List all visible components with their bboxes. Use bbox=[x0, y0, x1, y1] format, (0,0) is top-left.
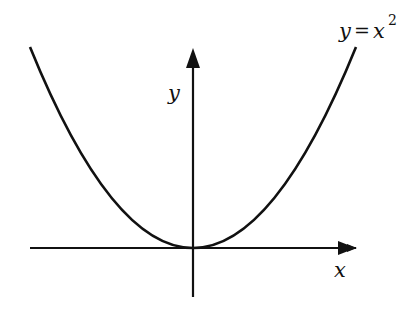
equation-equals: = bbox=[354, 19, 370, 41]
y-axis-label: y bbox=[167, 81, 181, 105]
y-axis-arrow-icon bbox=[186, 48, 200, 68]
equation-exponent: 2 bbox=[388, 12, 397, 28]
x-axis-label: x bbox=[334, 258, 346, 282]
equation-rhs: x bbox=[373, 19, 385, 43]
x-axis-arrow-icon bbox=[338, 241, 356, 255]
curve-equation-label: y = x 2 bbox=[338, 12, 397, 43]
parabola-diagram: y x y = x 2 bbox=[0, 0, 416, 320]
equation-lhs: y bbox=[338, 19, 352, 43]
